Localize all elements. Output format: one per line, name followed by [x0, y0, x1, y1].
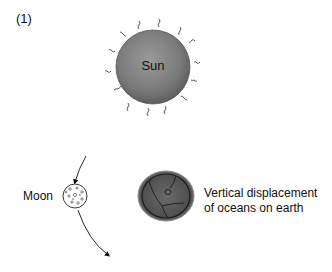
moon-icon	[63, 184, 87, 208]
earth-icon	[138, 171, 194, 221]
earth-label-line1: Vertical displacement	[204, 186, 317, 201]
panel-label: (1)	[16, 11, 32, 26]
diagram-canvas	[0, 0, 332, 272]
earth-label: Vertical displacement of oceans on earth	[204, 186, 317, 216]
earth-label-line2: of oceans on earth	[204, 201, 317, 216]
moon-label: Moon	[23, 189, 53, 203]
sun-label: Sun	[133, 58, 173, 73]
